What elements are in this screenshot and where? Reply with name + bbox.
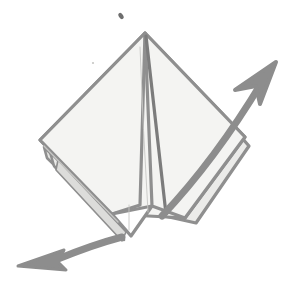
origami-diagram-figure: Origami fold step diagram Diamond-shaped… <box>0 0 292 287</box>
faint-speck-left <box>92 62 94 64</box>
origami-diagram-canvas <box>0 0 292 287</box>
